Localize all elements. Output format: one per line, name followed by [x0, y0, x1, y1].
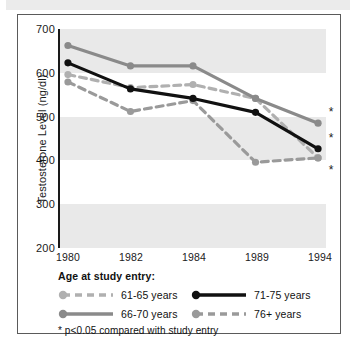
legend-label: 66-70 years	[121, 308, 178, 320]
legend-item: 71-75 years	[191, 289, 328, 301]
data-point-marker	[314, 145, 321, 152]
y-axis-title: Testosterone Level (ng/dl)	[34, 29, 50, 248]
data-point-marker	[314, 154, 321, 161]
x-tick-label: 1994	[308, 251, 332, 263]
significance-asterisk: *	[329, 106, 334, 118]
data-point-marker	[252, 109, 259, 116]
series-line	[68, 63, 318, 149]
legend-item: 76+ years	[191, 308, 328, 320]
data-point-marker	[189, 95, 196, 102]
x-tick-label: 1982	[119, 251, 143, 263]
significance-asterisk: *	[329, 132, 334, 144]
y-axis-title-text: Testosterone Level (ng/dl)	[36, 74, 48, 203]
y-tick-label: 500	[36, 111, 55, 123]
significance-asterisk: *	[329, 164, 334, 176]
data-point-marker	[127, 85, 134, 92]
legend-swatch	[58, 289, 115, 301]
legend-label: 76+ years	[254, 308, 301, 320]
data-point-marker	[64, 78, 71, 85]
data-point-marker	[64, 71, 71, 78]
data-point-marker	[189, 81, 196, 88]
chart-lines	[60, 29, 326, 246]
data-point-marker	[127, 62, 134, 69]
x-tick-label: 1984	[182, 251, 206, 263]
page-top-band	[6, 0, 350, 10]
data-point-marker	[64, 42, 71, 49]
data-point-marker	[252, 95, 259, 102]
y-tick-label: 700	[36, 23, 55, 35]
footnote: * p<0.05 compared with study entry	[58, 325, 218, 336]
x-tick-label: 1980	[56, 251, 80, 263]
y-tick-label: 300	[36, 198, 55, 210]
y-tick-label: 200	[36, 242, 55, 254]
data-point-marker	[189, 62, 196, 69]
y-tick-label: 600	[36, 67, 55, 79]
data-point-marker	[252, 159, 259, 166]
figure-page: Testosterone Level (ng/dl) 2003004005006…	[0, 0, 356, 351]
legend-swatch	[58, 308, 115, 320]
legend-item: 66-70 years	[58, 308, 191, 320]
y-tick-label: 400	[36, 154, 55, 166]
legend: Age at study entry: 61-65 years71-75 yea…	[58, 270, 328, 320]
legend-label: 61-65 years	[121, 289, 178, 301]
data-point-marker	[64, 59, 71, 66]
figure-border-box: Testosterone Level (ng/dl) 2003004005006…	[17, 14, 341, 334]
legend-items: 61-65 years71-75 years66-70 years76+ yea…	[58, 289, 328, 320]
data-point-marker	[314, 120, 321, 127]
legend-swatch	[191, 289, 248, 301]
legend-label: 71-75 years	[254, 289, 311, 301]
legend-item: 61-65 years	[58, 289, 191, 301]
x-tick-label: 1989	[245, 251, 269, 263]
legend-title: Age at study entry:	[58, 270, 328, 282]
data-point-marker	[127, 108, 134, 115]
legend-swatch	[191, 308, 248, 320]
plot-area: 200300400500600700 19801982198419891994 …	[58, 29, 326, 248]
